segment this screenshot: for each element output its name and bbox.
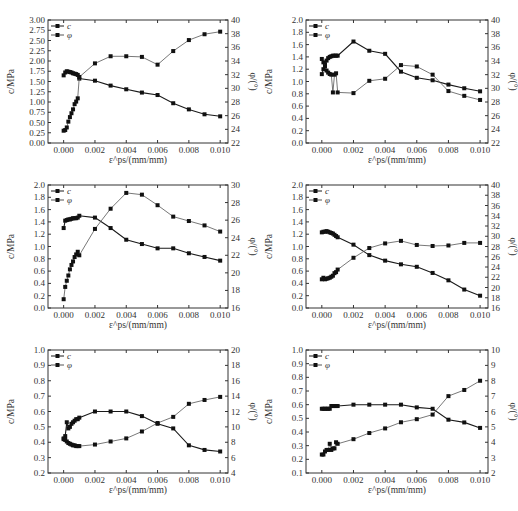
y-right-tick-label: 40 <box>491 15 501 25</box>
y-left-tick-label: 1.4 <box>34 217 46 227</box>
data-point-marker <box>336 268 340 272</box>
y-left-tick-label: 0.75 <box>29 107 45 117</box>
y-right-tick-label: 28 <box>231 198 241 208</box>
y-right-tick-label: 34 <box>491 56 501 66</box>
data-point-marker <box>321 60 325 64</box>
x-axis-title: ε^ps/(mm/mm) <box>109 320 167 331</box>
data-point-marker <box>446 243 450 247</box>
data-point-marker <box>415 64 419 68</box>
y-left-axis-title: c/MPa <box>264 398 274 424</box>
y-right-tick-label: 40 <box>231 15 241 25</box>
data-point-marker <box>367 246 371 250</box>
y-right-axis-title: φ/(°) <box>507 72 518 90</box>
y-right-tick-label: 34 <box>231 56 241 66</box>
data-point-marker <box>156 421 160 425</box>
y-left-tick-label: 2.50 <box>29 36 45 46</box>
y-right-tick-label: 26 <box>491 252 501 262</box>
data-point-marker <box>446 418 450 422</box>
y-left-tick-label: 0.6 <box>292 266 304 276</box>
data-point-marker <box>203 255 207 259</box>
x-axis-title: ε^ps/(mm/mm) <box>109 485 167 496</box>
series-phi <box>320 57 482 102</box>
y-left-tick-label: 0.3 <box>292 441 304 451</box>
y-right-tick-label: 36 <box>491 42 501 52</box>
x-tick-label: 0.004 <box>375 475 396 485</box>
y-left-tick-label: 0.4 <box>292 427 304 437</box>
y-left-tick-label: 0.0 <box>34 303 46 313</box>
x-tick-label: 0.010 <box>210 310 231 320</box>
y-left-tick-label: 1.00 <box>29 97 45 107</box>
data-point-marker <box>332 446 336 450</box>
data-point-marker <box>336 235 340 239</box>
y-right-tick-label: 32 <box>491 221 500 231</box>
data-point-marker <box>63 285 67 289</box>
data-point-marker <box>383 77 387 81</box>
data-point-marker <box>336 442 340 446</box>
data-point-marker <box>77 444 81 448</box>
plot-frame <box>48 185 228 308</box>
data-point-marker <box>187 38 191 42</box>
data-point-marker <box>109 410 113 414</box>
data-point-marker <box>171 49 175 53</box>
legend-label: φ <box>325 195 330 205</box>
data-point-marker <box>124 436 128 440</box>
data-point-marker <box>218 449 222 453</box>
data-point-marker <box>77 253 81 257</box>
data-point-marker <box>415 265 419 269</box>
data-point-marker <box>383 259 387 263</box>
y-right-axis-title: φ/(°) <box>507 402 518 420</box>
x-tick-label: 0.000 <box>54 310 75 320</box>
y-left-tick-label: 0.2 <box>292 291 303 301</box>
data-point-marker <box>323 64 327 68</box>
data-point-marker <box>71 259 75 263</box>
data-point-marker <box>109 226 113 230</box>
y-left-tick-label: 0.2 <box>292 454 303 464</box>
data-point-marker <box>156 63 160 67</box>
data-point-marker <box>478 89 482 93</box>
y-left-tick-label: 1.4 <box>292 217 304 227</box>
y-right-tick-label: 36 <box>231 42 241 52</box>
data-point-marker <box>462 388 466 392</box>
y-left-tick-label: 0.1 <box>292 468 303 478</box>
y-right-tick-label: 36 <box>491 201 501 211</box>
x-tick-label: 0.002 <box>343 310 363 320</box>
y-left-tick-label: 0.8 <box>292 89 304 99</box>
data-point-marker <box>320 57 324 61</box>
data-point-marker <box>367 79 371 83</box>
x-tick-label: 0.004 <box>375 310 396 320</box>
data-point-marker <box>351 256 355 260</box>
chart-panel-top-left: 0.000.250.500.751.001.251.501.752.002.25… <box>0 5 258 165</box>
data-point-marker <box>478 98 482 102</box>
y-left-tick-label: 1.0 <box>292 242 304 252</box>
data-point-marker <box>351 437 355 441</box>
data-point-marker <box>218 395 222 399</box>
y-right-axis-title: φ/(°) <box>247 237 258 255</box>
x-tick-label: 0.008 <box>179 310 200 320</box>
data-point-marker <box>320 72 324 76</box>
plot-frame <box>306 20 488 143</box>
x-axis-title: ε^ps/(mm/mm) <box>368 485 426 496</box>
data-point-marker <box>399 70 403 74</box>
data-point-marker <box>478 379 482 383</box>
chart-panel-middle-right: 0.00.20.40.60.81.01.21.41.61.82.01618202… <box>258 170 518 330</box>
y-left-tick-label: 0.8 <box>292 372 304 382</box>
y-left-tick-label: 0.50 <box>29 118 45 128</box>
y-left-tick-label: 0.9 <box>34 360 46 370</box>
x-tick-label: 0.006 <box>407 310 428 320</box>
series-phi <box>62 30 223 133</box>
legend-label: φ <box>67 360 72 370</box>
y-right-tick-label: 6 <box>491 407 496 417</box>
chart-legend: cφ <box>309 186 330 205</box>
chart-legend: cφ <box>309 351 330 370</box>
y-left-tick-label: 1.0 <box>34 242 46 252</box>
data-point-marker <box>367 253 371 257</box>
y-right-tick-label: 8 <box>231 437 236 447</box>
x-tick-label: 0.002 <box>85 475 105 485</box>
y-left-tick-label: 2.0 <box>292 15 304 25</box>
data-point-marker <box>478 294 482 298</box>
y-right-tick-label: 22 <box>231 138 240 148</box>
y-right-tick-label: 18 <box>231 360 241 370</box>
y-right-tick-label: 32 <box>491 70 500 80</box>
y-left-tick-label: 0.6 <box>292 400 304 410</box>
y-right-tick-label: 16 <box>231 303 241 313</box>
